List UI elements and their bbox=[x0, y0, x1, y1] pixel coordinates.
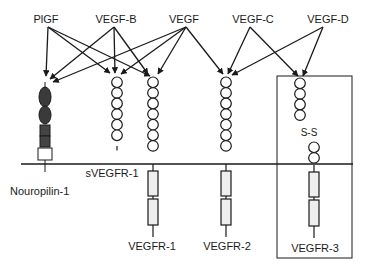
receptor-label-neuropilin-1: Nouropilin-1 bbox=[10, 186, 69, 197]
vegf-receptor-diagram: PlGF VEGF-B VEGF VEGF-C VEGF-D Nouropili… bbox=[0, 0, 366, 267]
nrp-a-domain-1 bbox=[39, 87, 51, 107]
binding-arrow bbox=[114, 27, 115, 73]
ig-like-domain bbox=[112, 98, 123, 109]
vegfr-1-receptor bbox=[148, 77, 159, 237]
ig-like-domain bbox=[221, 88, 232, 99]
ig-like-domain bbox=[221, 119, 232, 130]
neuropilin-1-receptor bbox=[38, 82, 52, 172]
receptor-label-svegfr-1: sVEGFR-1 bbox=[85, 168, 138, 179]
kinase-domain-2 bbox=[221, 199, 231, 225]
ig-like-domain bbox=[112, 77, 123, 88]
ig-like-domain bbox=[148, 130, 159, 141]
binding-arrows bbox=[46, 27, 323, 82]
disulfide-bond-label: S-S bbox=[301, 128, 318, 138]
binding-arrow bbox=[158, 27, 186, 74]
binding-arrow bbox=[232, 27, 323, 75]
ig-like-domain bbox=[148, 109, 159, 120]
ligand-label-plgf: PlGF bbox=[33, 14, 58, 25]
kinase-domain-2 bbox=[148, 199, 158, 225]
ig-like-domain bbox=[221, 141, 232, 152]
kinase-domain-1 bbox=[148, 171, 158, 196]
nrp-a-domain-2 bbox=[39, 106, 51, 124]
nrp-b-domain-1 bbox=[40, 125, 50, 136]
svegfr-1-receptor bbox=[112, 77, 123, 151]
binding-arrow bbox=[250, 27, 298, 76]
ig-like-domain bbox=[295, 89, 306, 100]
binding-arrow bbox=[303, 27, 323, 76]
kinase-domain-1 bbox=[221, 171, 231, 196]
binding-arrow bbox=[46, 27, 48, 76]
receptor-label-vegfr-2: VEGFR-2 bbox=[203, 241, 251, 252]
receptor-label-vegfr-1: VEGFR-1 bbox=[128, 241, 176, 252]
nrp-b-domain-2 bbox=[40, 136, 50, 147]
ig-like-domain bbox=[112, 130, 123, 141]
ig-like-domain bbox=[112, 119, 123, 130]
ig-like-domain bbox=[112, 109, 123, 120]
ig-like-domain bbox=[309, 142, 320, 153]
vegfr-2-receptor bbox=[221, 77, 232, 237]
binding-arrow bbox=[186, 27, 223, 74]
ligand-label-vegf-c: VEGF-C bbox=[232, 14, 274, 25]
ig-like-domain bbox=[295, 78, 306, 89]
ig-like-domain bbox=[112, 88, 123, 99]
ig-like-domain bbox=[148, 141, 159, 152]
ig-like-domain bbox=[148, 77, 159, 88]
receptor-label-vegfr-3: VEGFR-3 bbox=[291, 243, 339, 254]
ig-like-domain bbox=[221, 109, 232, 120]
ig-like-domain bbox=[221, 98, 232, 109]
vegfr-3-receptor bbox=[295, 78, 320, 238]
ligand-label-vegf-b: VEGF-B bbox=[96, 14, 137, 25]
ligand-label-vegf: VEGF bbox=[169, 14, 199, 25]
ig-like-domain bbox=[221, 77, 232, 88]
ig-like-domain bbox=[148, 88, 159, 99]
binding-arrow bbox=[48, 27, 110, 73]
kinase-domain-1 bbox=[309, 172, 319, 197]
ig-like-domain bbox=[309, 153, 320, 164]
ig-like-domain bbox=[295, 110, 306, 121]
ig-like-domain bbox=[148, 98, 159, 109]
kinase-domain-2 bbox=[309, 200, 319, 226]
nrp-c-domain bbox=[38, 148, 52, 160]
ig-like-domain bbox=[148, 119, 159, 130]
ig-like-domain bbox=[295, 99, 306, 110]
ligand-label-vegf-d: VEGF-D bbox=[307, 14, 349, 25]
ig-like-domain bbox=[221, 130, 232, 141]
